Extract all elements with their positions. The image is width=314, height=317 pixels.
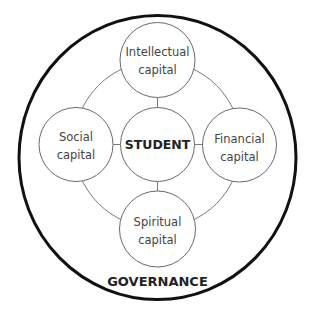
node-circle <box>39 108 113 182</box>
node-financial-capital: Financial capital <box>203 108 277 182</box>
governance-label: GOVERNANCE <box>107 274 208 289</box>
node-label-line1: Social <box>59 130 93 144</box>
node-circle <box>120 191 196 267</box>
node-intellectual-capital: Intellectual capital <box>120 23 195 98</box>
node-label-line2: capital <box>220 150 259 164</box>
center-label: STUDENT <box>125 137 191 152</box>
node-spiritual-capital: Spiritual capital <box>120 191 196 267</box>
node-student: STUDENT <box>121 108 195 182</box>
node-label-line2: capital <box>57 148 96 162</box>
node-label-line1: Intellectual <box>125 45 189 59</box>
node-label-line2: capital <box>138 63 177 77</box>
governance-diagram: Intellectual capital Social capital Fina… <box>0 0 314 317</box>
node-circle <box>120 23 195 98</box>
node-label-line1: Financial <box>214 132 264 146</box>
node-label-line1: Spiritual <box>134 215 182 229</box>
node-label-line2: capital <box>138 233 177 247</box>
node-social-capital: Social capital <box>39 108 113 182</box>
